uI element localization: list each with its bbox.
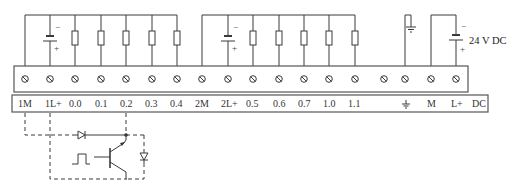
label-0-0: 0.0 [69,98,82,109]
label-1lplus: 1L+ [45,98,62,109]
protection-diode-icon [140,153,148,163]
terminal-block [14,66,468,92]
series-diode-icon [76,131,126,139]
battery-1-minus: − [55,22,60,32]
wiring-diagram: − + − + − + 24 V DC [0,0,515,191]
internal-output-circuit [25,113,144,179]
label-1-1: 1.1 [348,98,361,109]
pulse-signal-icon [72,154,90,164]
ground-icon [405,15,416,66]
battery-2-plus: + [232,43,237,53]
label-dc: DC [472,98,486,109]
label-m: M [427,98,436,109]
supply-24v-wiring [431,15,463,66]
label-0-4: 0.4 [170,98,183,109]
group-1-wiring [25,15,180,66]
label-0-6: 0.6 [273,98,286,109]
transistor-icon [94,135,126,179]
label-0-5: 0.5 [246,98,259,109]
supply-voltage-label: 24 V DC [469,35,507,46]
label-0-1: 0.1 [95,98,108,109]
label-1m: 1M [18,98,32,109]
battery-2-minus: − [233,22,238,32]
label-0-2: 0.2 [120,98,133,109]
label-lplus: L+ [451,98,463,109]
battery-3-minus: − [461,21,466,31]
group-2-wiring [202,15,358,66]
label-2m: 2M [195,98,209,109]
label-0-7: 0.7 [298,98,311,109]
label-1-0: 1.0 [323,98,336,109]
battery-3-plus: + [460,44,465,54]
label-2lplus: 2L+ [221,98,238,109]
battery-1-plus: + [54,43,59,53]
label-0-3: 0.3 [145,98,158,109]
